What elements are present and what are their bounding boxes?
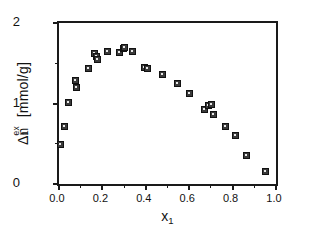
x-tick-label: 0.0 <box>49 192 64 204</box>
x-tick-label: 1.0 <box>266 192 281 204</box>
x-tick-label: 0.4 <box>136 192 151 204</box>
x-tick-major <box>58 184 60 190</box>
data-point <box>57 141 64 148</box>
data-point <box>174 80 181 87</box>
data-point <box>232 132 239 139</box>
data-point <box>262 168 269 175</box>
x-axis-subscript: 1 <box>168 215 173 226</box>
data-point <box>159 71 166 78</box>
x-tick-label: 0.6 <box>180 192 195 204</box>
data-layer <box>59 23 276 184</box>
x-tick-minor <box>167 184 168 188</box>
x-tick-major <box>145 184 147 190</box>
x-tick-major <box>188 184 190 190</box>
x-tick-minor <box>124 184 125 188</box>
y-tick-minor <box>55 143 59 144</box>
x-tick-label: 0.8 <box>223 192 238 204</box>
data-point <box>121 44 128 51</box>
y-tick-minor <box>55 63 59 64</box>
data-point <box>94 56 101 63</box>
x-tick-major <box>101 184 103 190</box>
y-tick-label: 0 <box>13 175 20 190</box>
y-tick-major <box>53 103 59 105</box>
y-axis-n-group: n1exex <box>15 117 31 135</box>
data-point <box>222 123 229 130</box>
data-point <box>129 48 136 55</box>
data-point <box>243 152 250 159</box>
data-point <box>144 65 151 72</box>
x-tick-major <box>275 184 277 190</box>
y-tick-label: 1 <box>13 94 20 109</box>
data-point <box>208 101 215 108</box>
x-tick-major <box>232 184 234 190</box>
y-axis-delta: Δ <box>15 135 31 145</box>
figure-scatter-plot: Δn1exex [mmol/g] x1 0120.00.20.40.60.81.… <box>0 0 309 235</box>
x-tick-minor <box>80 184 81 188</box>
data-point <box>61 123 68 130</box>
data-point <box>65 99 72 106</box>
data-point <box>85 65 92 72</box>
data-point <box>73 84 80 91</box>
data-point <box>210 111 217 118</box>
x-axis-title: x1 <box>57 208 278 226</box>
x-tick-minor <box>254 184 255 188</box>
data-point <box>186 90 193 97</box>
y-tick-label: 2 <box>13 14 20 29</box>
y-axis-superscript: ex <box>11 126 21 135</box>
x-tick-minor <box>210 184 211 188</box>
y-tick-major <box>53 22 59 24</box>
plot-area <box>57 21 278 186</box>
x-tick-label: 0.2 <box>93 192 108 204</box>
data-point <box>104 48 111 55</box>
